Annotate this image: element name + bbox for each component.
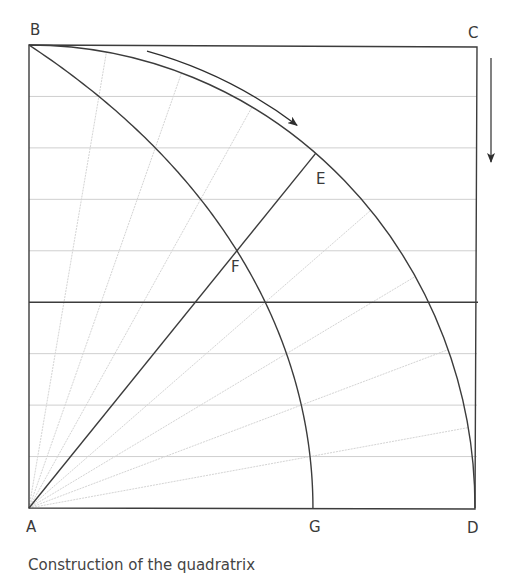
grid-ray [29,73,182,508]
label-f: F [231,258,240,276]
label-a: A [26,518,37,536]
grid-ray [29,210,371,508]
grid-ray [29,428,468,508]
radial-grid-rays [29,52,468,508]
horizontal-grid-lines [29,96,477,456]
grid-ray [29,107,252,508]
label-g: G [309,518,321,536]
rotating-radius-ae [29,153,316,508]
grid-ray [29,350,448,508]
grid-ray [29,52,106,508]
label-e: E [316,170,325,188]
label-c: C [468,24,478,42]
quadratrix-curve-bg [29,45,313,508]
grid-ray [29,277,415,509]
rotation-arrow [147,51,297,125]
figure-caption: Construction of the quadratrix [28,556,255,574]
label-b: B [30,21,40,39]
main-construction-lines [29,45,491,509]
label-d: D [467,519,479,537]
